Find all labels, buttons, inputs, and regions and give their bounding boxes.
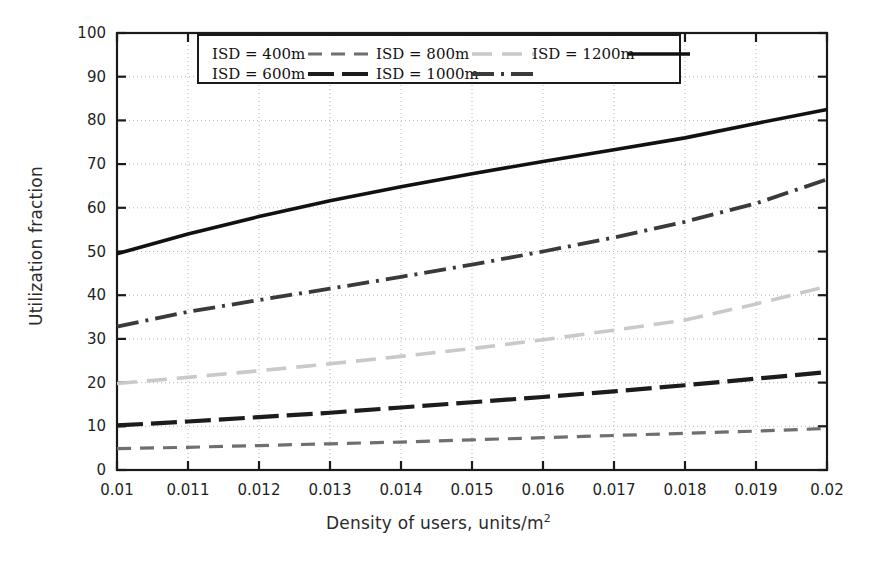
axis-ticks (117, 33, 827, 470)
line-chart-canvas: 0.010.0110.0120.0130.0140.0150.0160.0170… (0, 0, 877, 566)
svg-text:30: 30 (87, 330, 106, 348)
svg-text:0.018: 0.018 (664, 481, 707, 499)
svg-text:0: 0 (96, 461, 106, 479)
svg-text:0.012: 0.012 (238, 481, 281, 499)
x-axis-label-exponent: 2 (544, 512, 551, 525)
svg-text:0.011: 0.011 (167, 481, 210, 499)
grid-lines (117, 33, 827, 470)
legend-label-3: ISD = 600m (212, 65, 305, 83)
svg-text:20: 20 (87, 374, 106, 392)
axes-frame (117, 33, 827, 470)
svg-text:0.02: 0.02 (810, 481, 843, 499)
chart-legend: ISD = 400mISD = 800mISD = 1200mISD = 600… (198, 35, 690, 83)
svg-text:0.013: 0.013 (309, 481, 352, 499)
x-axis-label: Density of users, units/m2 (0, 512, 877, 533)
svg-text:70: 70 (87, 155, 106, 173)
svg-text:50: 50 (87, 243, 106, 261)
legend-label-4: ISD = 1000m (376, 65, 479, 83)
svg-text:0.014: 0.014 (380, 481, 423, 499)
y-axis-label: Utilization fraction (26, 136, 46, 356)
legend-label-1: ISD = 800m (376, 45, 469, 63)
x-tick-labels: 0.010.0110.0120.0130.0140.0150.0160.0170… (100, 481, 843, 499)
svg-text:40: 40 (87, 286, 106, 304)
svg-text:80: 80 (87, 111, 106, 129)
svg-text:0.016: 0.016 (522, 481, 565, 499)
chart-figure: 0.010.0110.0120.0130.0140.0150.0160.0170… (0, 0, 877, 566)
svg-text:90: 90 (87, 68, 106, 86)
svg-text:0.019: 0.019 (735, 481, 778, 499)
svg-text:0.015: 0.015 (451, 481, 494, 499)
svg-text:60: 60 (87, 199, 106, 217)
svg-text:0.01: 0.01 (100, 481, 133, 499)
y-tick-labels: 0102030405060708090100 (77, 24, 106, 479)
svg-text:0.017: 0.017 (593, 481, 636, 499)
svg-text:10: 10 (87, 417, 106, 435)
svg-text:100: 100 (77, 24, 106, 42)
legend-label-0: ISD = 400m (212, 45, 305, 63)
legend-label-2: ISD = 1200m (532, 45, 635, 63)
